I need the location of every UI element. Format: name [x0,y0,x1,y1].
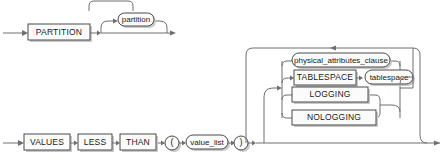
physical-attributes-clause-label: physical_attributes_clause [294,56,388,65]
close-paren-bubble: ) [234,136,250,152]
tablespace-keyword-label: TABLESPACE [297,72,354,82]
options-repeat-loop-arrow [330,46,336,51]
partition-bypass-path [101,31,176,36]
open-paren-bubble: ( [165,136,181,152]
partition-variable-bubble: partition [118,13,156,28]
partition-variable-label: partition [122,15,150,24]
partition-row-entry [3,30,28,36]
top-cutoff-arc [89,1,133,11]
than-keyword-box: THAN [120,134,158,152]
partition-keyword-label: PARTITION [36,27,82,37]
value-list-label: value_list [190,138,224,147]
values-row-tail [248,141,440,146]
values-keyword-label: VALUES [30,137,64,147]
option-nologging: NOLOGGING [282,105,400,127]
than-keyword-label: THAN [126,137,150,147]
nologging-keyword-label: NOLOGGING [307,112,361,122]
tablespace-variable-label: tablespace [370,73,409,82]
option-logging: LOGGING [282,87,380,105]
close-paren-label: ) [240,137,243,147]
values-keyword-box: VALUES [24,134,72,152]
values-row-entry [3,140,24,146]
open-paren-label: ( [171,137,174,147]
less-keyword-box: LESS [78,134,114,152]
option-tablespace: TABLESPACE tablespace [282,70,415,87]
logging-keyword-label: LOGGING [309,89,350,99]
less-keyword-label: LESS [84,137,107,147]
partition-keyword-box: PARTITION [28,24,92,42]
than-to-paren-connector [158,141,165,146]
options-group-inner-entry-rail [264,86,282,144]
railroad-diagram: PARTITION partition [0,0,447,163]
option-physical-attributes-clause: physical_attributes_clause [282,53,400,69]
railroad-diagram-canvas: PARTITION partition [0,0,447,163]
value-list-bubble: value_list [186,135,230,151]
